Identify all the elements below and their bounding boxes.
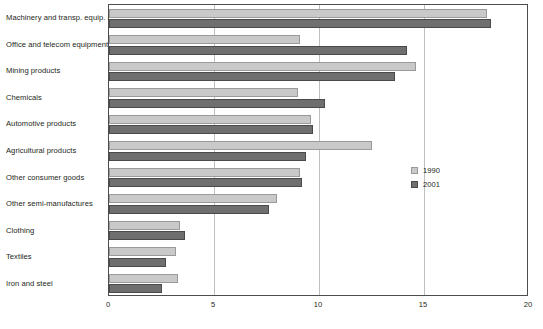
category-label: Agricultural products xyxy=(6,146,108,155)
bar-2001 xyxy=(109,205,269,214)
x-tick-label: 5 xyxy=(211,300,215,309)
bar-1990 xyxy=(109,62,416,71)
category-label: Other consumer goods xyxy=(6,172,108,181)
bar-1990 xyxy=(109,274,178,283)
bar-1990 xyxy=(109,115,311,124)
legend-swatch-2001 xyxy=(411,181,418,188)
gridline-15 xyxy=(424,5,425,295)
legend-item-1990: 1990 xyxy=(411,163,471,177)
category-label: Textiles xyxy=(6,252,108,261)
category-axis-labels: Machinery and transp. equip. aOffice and… xyxy=(0,0,108,296)
category-label: Machinery and transp. equip. a xyxy=(6,13,108,22)
x-tick-label: 0 xyxy=(106,300,110,309)
bar-1990 xyxy=(109,221,180,230)
bar-2001 xyxy=(109,284,162,293)
bar-1990 xyxy=(109,88,298,97)
bar-2001 xyxy=(109,231,185,240)
category-label: Automotive products xyxy=(6,119,108,128)
bar-1990 xyxy=(109,194,277,203)
category-label: Other semi-manufactures xyxy=(6,199,108,208)
bar-2001 xyxy=(109,178,302,187)
x-tick-label: 10 xyxy=(314,300,322,309)
legend-item-2001: 2001 xyxy=(411,177,471,191)
bar-2001 xyxy=(109,72,395,81)
bar-1990 xyxy=(109,141,372,150)
bar-1990 xyxy=(109,168,300,177)
bar-2001 xyxy=(109,152,306,161)
x-tick-label: 20 xyxy=(524,300,532,309)
x-tick-label: 15 xyxy=(419,300,427,309)
value-axis: 05101520 xyxy=(108,296,528,316)
bar-1990 xyxy=(109,35,300,44)
legend-label-2001: 2001 xyxy=(423,180,440,189)
category-label: Iron and steel xyxy=(6,278,108,287)
category-label: Office and telecom equipment xyxy=(6,39,108,48)
bar-2001 xyxy=(109,46,407,55)
bar-2001 xyxy=(109,258,166,267)
legend-label-1990: 1990 xyxy=(423,166,440,175)
bar-2001 xyxy=(109,99,325,108)
bar-2001 xyxy=(109,125,313,134)
category-label: Clothing xyxy=(6,225,108,234)
chart-legend: 1990 2001 xyxy=(411,163,471,191)
horizontal-bar-chart: Machinery and transp. equip. aOffice and… xyxy=(0,0,543,329)
legend-swatch-1990 xyxy=(411,167,418,174)
category-label: Mining products xyxy=(6,66,108,75)
bar-1990 xyxy=(109,247,176,256)
category-label: Chemicals xyxy=(6,92,108,101)
plot-area xyxy=(108,4,528,296)
bar-1990 xyxy=(109,9,487,18)
bar-2001 xyxy=(109,19,491,28)
